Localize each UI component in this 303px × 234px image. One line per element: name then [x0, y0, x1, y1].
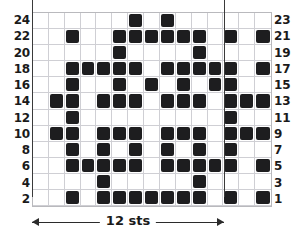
- stitch-cell-filled: [112, 190, 128, 206]
- stitch-cell-empty: [144, 93, 160, 109]
- stitch-cell-empty: [208, 13, 224, 29]
- stitch-cell-filled: [176, 29, 192, 45]
- stitch-cell-empty: [176, 110, 192, 126]
- stitch-cell-filled: [208, 61, 224, 77]
- stitch-cell-filled: [144, 190, 160, 206]
- stitch-cell-filled: [160, 190, 176, 206]
- stitch-cell-filled: [65, 77, 81, 93]
- stitch-cell-filled: [81, 61, 97, 77]
- stitch-cell-filled: [192, 45, 208, 61]
- stitch-cell-empty: [160, 45, 176, 61]
- stitch-cell-filled: [96, 126, 112, 142]
- stitch-cell-filled: [65, 110, 81, 126]
- stitch-cell-filled: [192, 93, 208, 109]
- right-row-label: 13: [274, 93, 290, 109]
- stitch-cell-empty: [112, 110, 128, 126]
- stitch-cell-empty: [239, 77, 255, 93]
- stitch-cell-empty: [81, 142, 97, 158]
- stitch-cell-empty: [239, 174, 255, 190]
- stitch-cell-empty: [223, 174, 239, 190]
- stitch-cell-empty: [208, 126, 224, 142]
- stitch-cell-filled: [112, 45, 128, 61]
- stitch-cell-empty: [160, 174, 176, 190]
- stitch-cell-empty: [208, 142, 224, 158]
- stitch-cell-filled: [176, 158, 192, 174]
- stitch-cell-filled: [112, 77, 128, 93]
- stitch-cell-filled: [223, 29, 239, 45]
- left-row-label: 20: [14, 45, 30, 61]
- stitch-cell-filled: [192, 158, 208, 174]
- left-row-label: 10: [14, 126, 30, 142]
- stitch-cell-filled: [255, 29, 271, 45]
- stitch-cell-empty: [81, 13, 97, 29]
- stitch-cell-empty: [49, 77, 65, 93]
- stitch-cell-filled: [96, 61, 112, 77]
- stitch-cell-empty: [192, 13, 208, 29]
- stitch-cell-filled: [81, 158, 97, 174]
- stitch-cell-empty: [33, 77, 49, 93]
- stitch-cell-empty: [33, 29, 49, 45]
- stitch-cell-empty: [176, 45, 192, 61]
- right-row-label: 1: [274, 191, 282, 207]
- stitch-cell-filled: [176, 190, 192, 206]
- stitch-cell-empty: [81, 29, 97, 45]
- stitch-cell-empty: [208, 93, 224, 109]
- stitch-cell-filled: [223, 142, 239, 158]
- stitch-cell-empty: [128, 174, 144, 190]
- stitch-cell-empty: [112, 13, 128, 29]
- stitch-cell-filled: [65, 142, 81, 158]
- stitch-cell-empty: [49, 45, 65, 61]
- stitch-cell-empty: [239, 190, 255, 206]
- stitch-cell-empty: [49, 174, 65, 190]
- stitch-cell-filled: [128, 142, 144, 158]
- stitch-cell-empty: [65, 174, 81, 190]
- stitch-cell-filled: [128, 158, 144, 174]
- stitch-cell-filled: [128, 190, 144, 206]
- stitch-cell-empty: [160, 110, 176, 126]
- stitch-cell-empty: [255, 174, 271, 190]
- stitch-cell-empty: [81, 77, 97, 93]
- stitch-cell-filled: [49, 126, 65, 142]
- right-row-label: 5: [274, 158, 282, 174]
- stitch-cell-filled: [255, 158, 271, 174]
- stitch-cell-empty: [128, 110, 144, 126]
- stitch-cell-filled: [192, 174, 208, 190]
- stitch-cell-filled: [65, 190, 81, 206]
- stitch-cell-filled: [255, 190, 271, 206]
- stitch-cell-filled: [223, 126, 239, 142]
- stitch-cell-empty: [96, 110, 112, 126]
- right-row-label: 7: [274, 142, 282, 158]
- stitch-cell-empty: [192, 77, 208, 93]
- stitch-cell-empty: [239, 142, 255, 158]
- stitch-cell-filled: [128, 93, 144, 109]
- stitch-cell-empty: [239, 158, 255, 174]
- stitch-cell-filled: [255, 126, 271, 142]
- stitch-cell-empty: [255, 142, 271, 158]
- stitch-grid: [32, 12, 272, 207]
- stitch-cell-empty: [160, 77, 176, 93]
- stitch-cell-empty: [96, 77, 112, 93]
- stitch-cell-filled: [160, 126, 176, 142]
- stitch-cell-empty: [144, 126, 160, 142]
- stitch-cell-empty: [223, 13, 239, 29]
- stitch-cell-filled: [255, 61, 271, 77]
- stitch-cell-empty: [49, 13, 65, 29]
- stitch-cell-empty: [96, 45, 112, 61]
- stitch-cell-filled: [144, 77, 160, 93]
- stitch-cell-empty: [239, 61, 255, 77]
- stitch-cell-filled: [128, 13, 144, 29]
- stitch-cell-empty: [239, 45, 255, 61]
- stitch-cell-filled: [176, 61, 192, 77]
- stitch-cell-filled: [96, 190, 112, 206]
- stitch-cell-filled: [112, 61, 128, 77]
- stitch-cell-empty: [144, 45, 160, 61]
- stitch-cell-empty: [65, 45, 81, 61]
- stitch-cell-filled: [208, 77, 224, 93]
- right-row-label: 21: [274, 28, 290, 44]
- stitch-cell-filled: [160, 61, 176, 77]
- stitch-cell-filled: [223, 190, 239, 206]
- stitch-cell-filled: [96, 93, 112, 109]
- stitch-cell-empty: [112, 142, 128, 158]
- stitch-cell-filled: [160, 142, 176, 158]
- stitch-cell-empty: [33, 13, 49, 29]
